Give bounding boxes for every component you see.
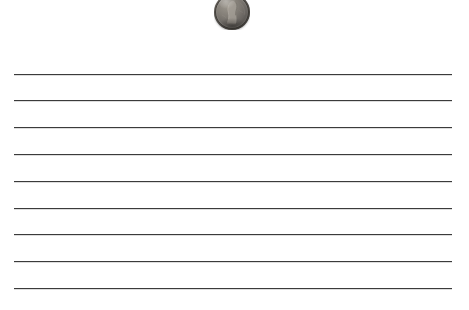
ruled-line <box>14 288 452 289</box>
page-canvas <box>0 0 469 310</box>
ruled-line <box>14 127 452 128</box>
ruled-line <box>14 181 452 182</box>
ruled-line <box>14 74 452 75</box>
ruled-line <box>14 261 452 262</box>
ruled-line <box>14 208 452 209</box>
ruled-line <box>14 154 452 155</box>
penny-coin <box>214 0 250 30</box>
ruled-line <box>14 100 452 101</box>
coin-clip-region <box>214 0 250 30</box>
ruled-line <box>14 234 452 235</box>
ruled-lines-group <box>0 0 469 310</box>
